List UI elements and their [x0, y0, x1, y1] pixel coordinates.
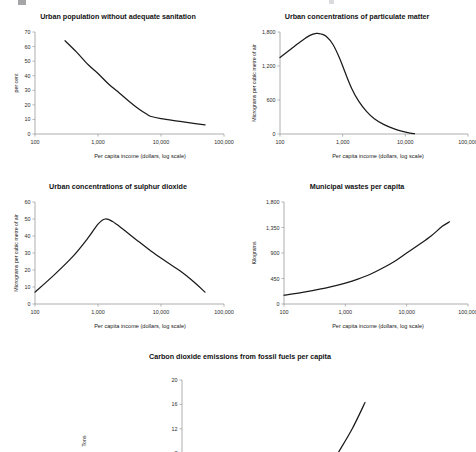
y-tick-label: 60 [25, 44, 31, 50]
y-tick-label: 20 [25, 102, 31, 108]
data-curve [35, 219, 205, 292]
y-tick-label: 450 [271, 276, 280, 282]
plot-area: 04509001,3501,8001001,00010,000100,000Ki… [240, 182, 474, 340]
x-axis-title: Per capita income (dollars, log scale) [94, 153, 186, 159]
y-tick-label: 40 [25, 73, 31, 79]
y-tick-label: 20 [172, 377, 178, 383]
y-tick-label: 1,200 [262, 63, 276, 69]
x-tick-label: 10,000 [397, 139, 414, 145]
x-tick-label: 1,000 [91, 139, 105, 145]
x-tick-label: 100,000 [214, 309, 234, 315]
data-curve [324, 403, 365, 452]
plot-area: 0102030405060701001,00010,000100,000per … [2, 12, 234, 170]
y-axis-title: per cent [13, 73, 19, 92]
x-tick-label: 10,000 [153, 139, 170, 145]
y-tick-label: 70 [25, 29, 31, 35]
y-tick-label: 60 [25, 199, 31, 205]
y-tick-label: 30 [25, 87, 31, 93]
y-tick-label: 12 [172, 426, 178, 432]
y-tick-label: 40 [25, 233, 31, 239]
y-tick-label: 600 [267, 97, 276, 103]
y-tick-label: 10 [25, 284, 31, 290]
x-tick-label: 100,000 [458, 139, 476, 145]
page-artifact-left [18, 0, 26, 5]
y-axis-title: Tons [81, 435, 87, 446]
chart-sulphur-dioxide: Urban concentrations of sulphur dioxide … [2, 182, 234, 340]
y-tick-label: 50 [25, 58, 31, 64]
x-tick-label: 100,000 [214, 139, 234, 145]
plot-area: 01020304050601001,00010,000100,000Microg… [2, 182, 234, 340]
y-tick-label: 0 [273, 131, 276, 137]
y-tick-label: 30 [25, 250, 31, 256]
y-tick-label: 0 [277, 301, 280, 307]
y-tick-label: 1,800 [266, 199, 280, 205]
y-axis-title: Micrograms per cubic metre of air [251, 44, 257, 122]
x-axis-title: Per capita income (dollars, log scale) [332, 153, 424, 159]
x-tick-label: 1,000 [336, 139, 350, 145]
y-axis-title: Micrograms per cubic metre of air [13, 214, 19, 292]
chart-carbon-dioxide: Carbon dioxide emissions from fossil fue… [70, 352, 410, 452]
x-tick-label: 100 [31, 309, 40, 315]
page-artifact-right [329, 0, 334, 4]
y-tick-label: 20 [25, 267, 31, 273]
y-tick-label: 0 [28, 301, 31, 307]
chart-particulate-matter: Urban concentrations of particulate matt… [240, 12, 474, 170]
x-tick-label: 100 [31, 139, 40, 145]
y-tick-label: 0 [28, 131, 31, 137]
x-tick-label: 1,000 [91, 309, 105, 315]
x-tick-label: 100,000 [458, 309, 476, 315]
x-tick-label: 1,000 [339, 309, 353, 315]
y-tick-label: 1,800 [262, 29, 276, 35]
data-curve [284, 222, 450, 295]
x-axis-title: Per capita income (dollars, log scale) [332, 323, 424, 329]
y-axis-title: Kilograms [251, 241, 257, 264]
data-curve [280, 33, 414, 133]
chart-municipal-wastes: Municipal wastes per capita 04509001,350… [240, 182, 474, 340]
y-tick-label: 50 [25, 216, 31, 222]
data-curve [65, 41, 205, 125]
y-tick-label: 10 [25, 116, 31, 122]
x-tick-label: 100 [280, 309, 289, 315]
x-tick-label: 100 [276, 139, 285, 145]
x-axis-title: Per capita income (dollars, log scale) [94, 323, 186, 329]
plot-area: 8121620Tons [70, 352, 410, 452]
chart-urban-sanitation: Urban population without adequate sanita… [2, 12, 234, 170]
y-tick-label: 1,350 [266, 225, 280, 231]
x-tick-label: 10,000 [153, 309, 170, 315]
x-tick-label: 10,000 [398, 309, 415, 315]
y-tick-label: 900 [271, 250, 280, 256]
y-tick-label: 16 [172, 401, 178, 407]
plot-area: 06001,2001,8001001,00010,000100,000Micro… [240, 12, 474, 170]
